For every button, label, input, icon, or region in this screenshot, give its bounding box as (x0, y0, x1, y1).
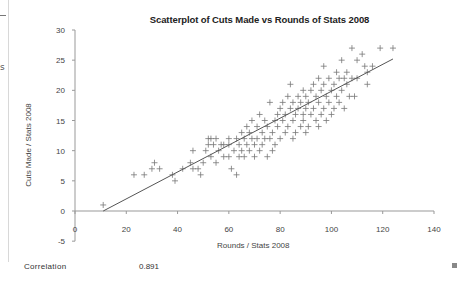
x-tick-label: 140 (427, 225, 441, 234)
x-tick-label: 20 (122, 225, 131, 234)
trendline (103, 59, 393, 211)
y-tick-label: 5 (61, 177, 66, 186)
y-tick-label: -5 (58, 237, 66, 246)
y-tick-label: 0 (61, 207, 66, 216)
y-axis-label: Cuts Made / Stats 2008 (24, 103, 33, 187)
x-tick-label: 0 (73, 225, 78, 234)
x-tick-label: 120 (376, 225, 390, 234)
scatter-plot-area: -5051015202530020406080100120140 (0, 0, 469, 282)
y-tick-label: 30 (56, 26, 65, 35)
x-tick-label: 60 (224, 225, 233, 234)
y-tick-label: 10 (56, 147, 65, 156)
correlation-label: Correlation (24, 262, 66, 271)
data-points (100, 45, 396, 208)
resize-handle[interactable] (452, 263, 457, 268)
y-tick-label: 20 (56, 86, 65, 95)
x-tick-label: 100 (325, 225, 339, 234)
axes: -5051015202530020406080100120140 (56, 26, 441, 246)
x-tick-label: 80 (276, 225, 285, 234)
x-axis-label: Rounds / Stats 2008 (217, 241, 290, 250)
x-tick-label: 40 (173, 225, 182, 234)
correlation-value: 0.891 (139, 262, 159, 271)
y-tick-label: 15 (56, 117, 65, 126)
y-tick-label: 25 (56, 56, 65, 65)
